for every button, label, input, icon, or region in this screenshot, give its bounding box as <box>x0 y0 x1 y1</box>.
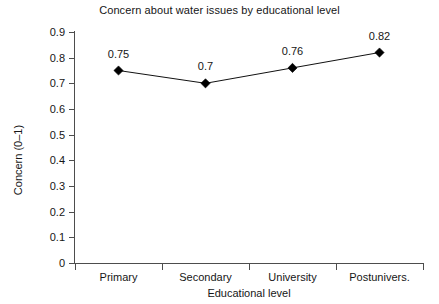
data-point-label: 0.82 <box>350 31 410 42</box>
data-point-marker <box>201 79 210 88</box>
y-tick-mark <box>69 109 75 110</box>
x-tick-label: Secondary <box>162 271 249 284</box>
chart-container: Concern about water issues by educationa… <box>0 0 439 304</box>
x-tick-label: Primary <box>75 271 162 284</box>
y-axis-line <box>74 31 75 264</box>
y-tick-mark <box>69 186 75 187</box>
y-tick-mark <box>69 237 75 238</box>
x-tick-mark <box>162 264 163 270</box>
y-tick-mark <box>69 58 75 59</box>
y-tick-mark <box>69 212 75 213</box>
x-tick-mark <box>336 264 337 270</box>
data-point-marker <box>375 48 384 57</box>
data-point-marker <box>288 63 297 72</box>
data-point-label: 0.76 <box>263 46 323 57</box>
y-tick-label: 0 <box>5 258 65 269</box>
series-plot <box>0 0 439 304</box>
x-tick-label: Postunivers. <box>336 271 423 284</box>
x-tick-mark <box>423 264 424 270</box>
y-tick-mark <box>69 32 75 33</box>
data-point-label: 0.75 <box>89 49 149 60</box>
data-point-label: 0.7 <box>176 61 236 72</box>
x-axis-title: Educational level <box>75 287 423 300</box>
y-axis-title-text: Concern (0–1) <box>12 90 25 230</box>
y-axis-title: Concern (0–1) <box>12 0 25 90</box>
data-point-marker <box>114 66 123 75</box>
x-tick-mark <box>249 264 250 270</box>
y-tick-label: 0.1 <box>5 232 65 243</box>
x-tick-label: University <box>249 271 336 284</box>
y-tick-mark <box>69 135 75 136</box>
chart-title: Concern about water issues by educationa… <box>0 3 439 17</box>
y-tick-mark <box>69 160 75 161</box>
y-tick-mark <box>69 83 75 84</box>
x-tick-mark <box>75 264 76 270</box>
